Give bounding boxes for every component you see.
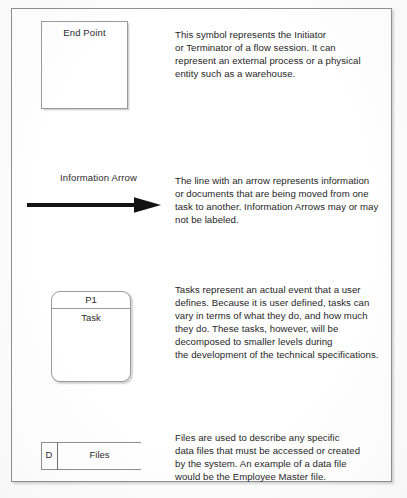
legend-row-endpoint: End Point This symbol represents the Ini… [12, 9, 393, 139]
files-store-code: D [41, 449, 57, 460]
legend-row-task: P1 Task Tasks represent an actual event … [12, 271, 393, 396]
scanned-page: End Point This symbol represents the Ini… [0, 0, 407, 498]
end-point-symbol: End Point [41, 21, 128, 109]
files-bottom-rule [41, 469, 141, 470]
legend-row-information-arrow: Information Arrow The line with an arrow… [12, 149, 393, 259]
information-arrow-symbol-label: Information Arrow [26, 172, 171, 183]
task-description: Tasks represent an actual event that a u… [175, 283, 391, 362]
files-symbol-label: Files [58, 449, 141, 460]
task-symbol: P1 Task [51, 291, 131, 382]
files-top-rule [41, 442, 141, 443]
files-description: Files are used to describe any specific … [175, 431, 391, 483]
information-arrow-description: The line with an arrow represents inform… [175, 174, 391, 226]
task-process-id: P1 [52, 294, 130, 305]
end-point-symbol-label: End Point [42, 27, 127, 38]
end-point-description: This symbol represents the Initiator or … [175, 28, 391, 80]
files-data-store-symbol: D Files [41, 442, 141, 470]
legend-frame: End Point This symbol represents the Ini… [11, 8, 392, 482]
information-arrow-icon [26, 194, 166, 216]
task-symbol-label: Task [52, 312, 130, 323]
legend-row-files: D Files Files are used to describe any s… [12, 409, 393, 483]
